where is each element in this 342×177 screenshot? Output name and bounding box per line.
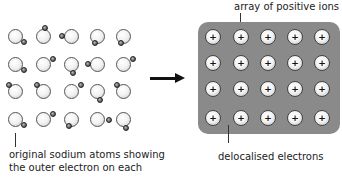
ions-label: array of positive ions [234, 1, 339, 13]
positive-ion: + [260, 29, 276, 45]
positive-ion: + [260, 81, 276, 97]
outer-electron [85, 61, 91, 67]
outer-electron [130, 56, 136, 62]
outer-electron [50, 56, 56, 62]
outer-electron [50, 111, 56, 117]
positive-ion: + [287, 29, 303, 45]
positive-ion: + [205, 110, 221, 126]
outer-electron [70, 70, 76, 76]
sodium-atom [64, 84, 79, 99]
positive-ion: + [314, 81, 330, 97]
positive-ion: + [205, 81, 221, 97]
outer-electron [92, 40, 98, 46]
arrow-head-icon [175, 73, 185, 83]
positive-ion: + [233, 29, 249, 45]
transform-arrow [150, 77, 176, 80]
outer-electron [21, 39, 27, 45]
positive-ion: + [233, 110, 249, 126]
outer-electron [123, 125, 129, 131]
sodium-atom [116, 57, 131, 72]
outer-electron [21, 67, 27, 73]
outer-electron [114, 82, 120, 88]
outer-electron [78, 82, 84, 88]
positive-ion: + [287, 81, 303, 97]
outer-electron [42, 25, 48, 31]
positive-ion: + [233, 55, 249, 71]
outer-electron [97, 97, 103, 103]
atom-label-pointer [15, 133, 16, 147]
electrons-label: delocalised electrons [218, 151, 324, 163]
positive-ion: + [314, 29, 330, 45]
sodium-atom [90, 112, 105, 127]
outer-electron [106, 117, 112, 123]
sodium-atom [36, 29, 51, 44]
positive-ion: + [260, 110, 276, 126]
positive-ion: + [314, 55, 330, 71]
atoms-label-line2: the outer electron on each [9, 162, 142, 174]
outer-electron [6, 82, 12, 88]
sodium-atom [36, 112, 51, 127]
sodium-atom [64, 29, 79, 44]
sodium-atom [90, 57, 105, 72]
positive-ion: + [205, 55, 221, 71]
atoms-label-line1: original sodium atoms showing [9, 149, 165, 161]
positive-ion: + [260, 55, 276, 71]
sodium-atom [36, 57, 51, 72]
electrons-label-pointer [228, 125, 229, 143]
positive-ion: + [205, 29, 221, 45]
positive-ion: + [287, 110, 303, 126]
outer-electron [34, 82, 40, 88]
outer-electron [118, 40, 124, 46]
positive-ion: + [233, 81, 249, 97]
outer-electron [66, 123, 72, 129]
outer-electron [21, 122, 27, 128]
positive-ion: + [287, 55, 303, 71]
positive-ion: + [314, 110, 330, 126]
outer-electron [59, 33, 65, 39]
